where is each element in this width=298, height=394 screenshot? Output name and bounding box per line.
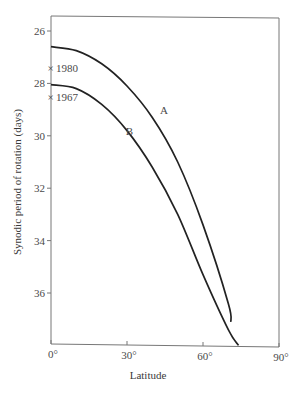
chart-canvas: 262830323436 0°30°60°90° ×1980×1967AB La…	[0, 0, 298, 394]
curve-label-b: B	[126, 125, 133, 137]
x-marker-icon: ×	[48, 62, 54, 74]
x-tick-label: 30°	[121, 349, 136, 361]
year-label: 1980	[56, 62, 79, 74]
x-axis-ticks: 0°30°60°90°	[48, 340, 289, 363]
year-label: 1967	[56, 91, 79, 103]
annotations: ×1980×1967AB	[48, 62, 168, 137]
curve-a	[51, 47, 231, 322]
plot-frame	[51, 16, 279, 347]
y-tick-label: 36	[34, 287, 46, 299]
y-tick-label: 26	[34, 25, 46, 37]
y-tick-label: 34	[34, 235, 46, 247]
curves	[51, 47, 239, 346]
x-marker-icon: ×	[48, 91, 54, 103]
x-tick-label: 90°	[273, 351, 288, 363]
y-tick-label: 32	[34, 182, 45, 194]
y-axis-title: Synodic period of rotation (days)	[11, 109, 24, 255]
curve-label-a: A	[160, 104, 168, 116]
y-tick-label: 28	[34, 77, 46, 89]
y-tick-label: 30	[34, 130, 46, 142]
x-tick-label: 60°	[197, 350, 212, 362]
x-axis-title: Latitude	[130, 369, 167, 381]
x-tick-label: 0°	[48, 348, 58, 360]
curve-b	[51, 85, 239, 346]
